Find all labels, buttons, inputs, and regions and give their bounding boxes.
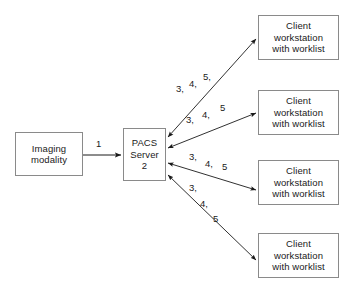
- edge-label-modality-to-pacs: 1: [96, 139, 101, 149]
- node-imaging-modality[interactable]: Imaging modality: [15, 132, 83, 176]
- node-client-workstation-2-line-3: with worklist: [272, 118, 325, 130]
- edge-pacs-to-client-2: [168, 113, 256, 148]
- edge-label-client-1-part-3: 5,: [203, 72, 211, 82]
- node-pacs-server-line-2: Server: [130, 149, 159, 161]
- edge-label-client-3-part-1: 3,: [189, 152, 197, 162]
- node-pacs-server-line-3: 2: [142, 160, 147, 172]
- node-client-workstation-2-line-1: Client: [286, 95, 311, 107]
- edge-label-client-4-part-1: 3,: [189, 183, 197, 193]
- edge-label-client-1-part-1: 3,: [176, 84, 184, 94]
- node-client-workstation-4-line-2: workstation: [274, 250, 323, 262]
- edge-label-client-3-part-3: 5: [222, 162, 227, 172]
- node-client-workstation-3-line-3: with worklist: [272, 188, 325, 200]
- node-client-workstation-2-line-2: workstation: [274, 107, 323, 119]
- edge-label-client-2-part-2: 4,: [202, 110, 210, 120]
- node-client-workstation-3-line-2: workstation: [274, 177, 323, 189]
- edge-label-client-4-part-2: 4,: [200, 199, 208, 209]
- node-client-workstation-4[interactable]: Client workstation with worklist: [258, 233, 339, 278]
- node-client-workstation-3-line-1: Client: [286, 165, 311, 177]
- edge-label-client-3-part-2: 4,: [205, 159, 213, 169]
- edge-label-client-2-part-3: 5: [220, 103, 225, 113]
- node-pacs-server[interactable]: PACS Server 2: [123, 128, 166, 181]
- node-imaging-modality-line-1: Imaging: [32, 143, 67, 155]
- node-client-workstation-1-line-3: with worklist: [272, 43, 325, 55]
- edge-pacs-to-client-4: [168, 175, 256, 260]
- node-imaging-modality-line-2: modality: [31, 154, 67, 166]
- edge-label-client-1-part-2: 4,: [189, 79, 197, 89]
- node-client-workstation-2[interactable]: Client workstation with worklist: [258, 90, 339, 135]
- diagram-canvas: Imaging modality PACS Server 2 Client wo…: [0, 0, 349, 294]
- node-client-workstation-4-line-1: Client: [286, 238, 311, 250]
- node-client-workstation-1-line-1: Client: [286, 20, 311, 32]
- node-pacs-server-line-1: PACS: [132, 137, 158, 149]
- node-client-workstation-1[interactable]: Client workstation with worklist: [258, 15, 339, 60]
- node-client-workstation-3[interactable]: Client workstation with worklist: [258, 160, 339, 205]
- node-client-workstation-1-line-2: workstation: [274, 32, 323, 44]
- edge-label-client-4-part-3: 5: [213, 214, 218, 224]
- edge-label-client-2-part-1: 3,: [186, 115, 194, 125]
- node-client-workstation-4-line-3: with worklist: [272, 261, 325, 273]
